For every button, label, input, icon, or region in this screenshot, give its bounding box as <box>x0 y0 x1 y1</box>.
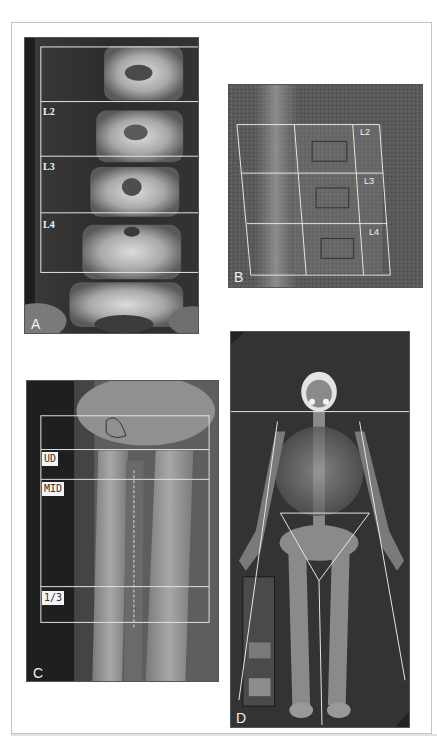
panel-b-lateral-spine: L2 L3 L4 B <box>228 84 423 288</box>
panel-c-forearm: UD MID 1/3 C <box>26 380 219 682</box>
panel-d-whole-body: D <box>230 331 410 728</box>
vertebra-label-l3: L3 <box>43 162 55 172</box>
vertebra-label-l2: L2 <box>360 128 370 137</box>
spine-pa-image <box>25 38 198 333</box>
region-label-ud: UD <box>42 452 58 466</box>
vertebra-label-l4: L4 <box>43 220 55 230</box>
panel-letter-c: C <box>33 666 43 680</box>
vertebra-label-l2: L2 <box>43 107 55 117</box>
region-label-one-third: 1/3 <box>42 591 64 605</box>
vertebra-label-l3: L3 <box>364 177 374 186</box>
frame-shadow <box>11 734 437 736</box>
panel-letter-a: A <box>31 317 40 331</box>
panel-a-lumbar-spine: L2 L3 L4 A <box>24 37 199 334</box>
panel-letter-d: D <box>236 711 246 725</box>
forearm-image <box>27 381 218 681</box>
spine-lateral-image <box>229 85 422 287</box>
vertebra-label-l4: L4 <box>369 228 379 237</box>
region-label-mid: MID <box>42 482 64 496</box>
panel-letter-b: B <box>234 270 243 284</box>
whole-body-image <box>231 332 409 727</box>
